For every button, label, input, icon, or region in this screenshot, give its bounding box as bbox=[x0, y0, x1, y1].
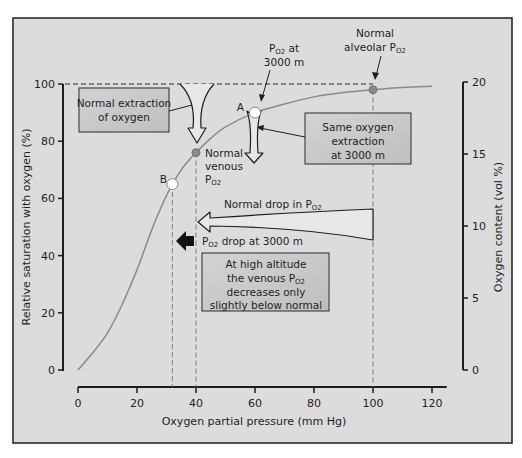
same-extraction-line3: at 3000 m bbox=[331, 149, 385, 161]
y-tick-label: 40 bbox=[41, 250, 55, 263]
x-tick-label: 20 bbox=[130, 397, 144, 410]
po2-3000-line2: 3000 m bbox=[264, 56, 304, 68]
point-normal-alveolar bbox=[369, 86, 377, 94]
normal-extraction-line1: Normal extraction bbox=[77, 97, 172, 109]
point-B bbox=[167, 179, 178, 190]
high-altitude-line2: the venous PO2 bbox=[227, 272, 305, 286]
y2-tick-label: 10 bbox=[472, 220, 486, 233]
normal-venous-line2: venous bbox=[205, 160, 243, 172]
same-extraction-line2: extraction bbox=[331, 135, 384, 147]
y-axis-title: Relative saturation with oxygen (%) bbox=[20, 129, 33, 326]
high-altitude-line3: decreases only bbox=[227, 286, 306, 298]
high-altitude-line4: slightly below normal bbox=[210, 299, 322, 311]
x-tick-label: 120 bbox=[422, 397, 443, 410]
normal-extraction-line2: of oxygen bbox=[98, 111, 150, 123]
y2-tick-label: 0 bbox=[472, 364, 479, 377]
figure-panel bbox=[13, 18, 512, 443]
point-A bbox=[250, 107, 261, 118]
point-normal-venous bbox=[192, 149, 200, 157]
x-tick-label: 40 bbox=[189, 397, 203, 410]
y-tick-label: 20 bbox=[41, 307, 55, 320]
normal-extraction-box bbox=[79, 88, 169, 132]
x-tick-label: 80 bbox=[307, 397, 321, 410]
x-tick-label: 0 bbox=[75, 397, 82, 410]
y2-tick-label: 15 bbox=[472, 148, 486, 161]
normal-alveolar-line1: Normal bbox=[356, 27, 394, 39]
same-extraction-line1: Same oxygen bbox=[322, 121, 393, 133]
x-axis-title: Oxygen partial pressure (mm Hg) bbox=[162, 415, 347, 428]
oxygen-dissociation-figure: 02040608010002040608010012005101520 Norm… bbox=[0, 0, 522, 458]
normal-drop-label: Normal drop in PO2 bbox=[224, 198, 322, 212]
y2-tick-label: 5 bbox=[472, 292, 479, 305]
point-b-label: B bbox=[160, 173, 167, 185]
y2-axis-title: Oxygen content (vol %) bbox=[492, 162, 505, 292]
x-tick-label: 60 bbox=[248, 397, 262, 410]
high-altitude-line1: At high altitude bbox=[226, 258, 307, 270]
y-tick-label: 0 bbox=[48, 364, 55, 377]
y-tick-label: 80 bbox=[41, 135, 55, 148]
normal-venous-line1: Normal bbox=[205, 147, 243, 159]
y2-tick-label: 20 bbox=[472, 76, 486, 89]
y-tick-label: 100 bbox=[34, 78, 55, 91]
point-a-label: A bbox=[237, 101, 245, 113]
y-tick-label: 60 bbox=[41, 192, 55, 205]
x-tick-label: 100 bbox=[363, 397, 384, 410]
